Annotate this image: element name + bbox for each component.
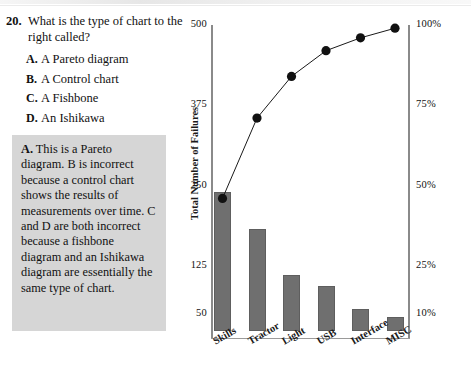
pareto-chart: Total Number of Failures 50037525012550 … [176,8,468,374]
cumulative-marker-2 [287,72,296,81]
question-prompt: What is the type of chart to the right c… [28,14,184,45]
cumulative-marker-0 [218,194,227,203]
cumulative-marker-5 [390,24,399,33]
question-number: 20. [6,14,28,29]
choice-label-d: An Ishikawa [41,111,105,126]
choice-option-a[interactable]: A. A Pareto diagram [26,52,184,67]
question-row: 20. What is the type of chart to the rig… [6,14,184,45]
answer-body: This is a Pareto diagram. B is incorrect… [21,142,156,295]
choice-option-c[interactable]: C. A Fishbone [26,91,184,106]
cumulative-marker-4 [356,33,365,42]
answer-explanation-box: A. This is a Pareto diagram. B is incorr… [12,135,166,331]
choice-label-a: A Pareto diagram [41,52,128,67]
choice-letter-d: D. [26,111,41,126]
scan-artifact-top [0,0,471,4]
choice-option-d[interactable]: D. An Ishikawa [26,111,184,126]
cumulative-marker-3 [321,46,330,55]
choice-letter-b: B. [26,72,41,87]
scan-artifact-line [0,5,471,6]
question-block: 20. What is the type of chart to the rig… [6,14,184,130]
choice-option-b[interactable]: B. A Control chart [26,72,184,87]
answer-explanation-text: A. This is a Pareto diagram. B is incorr… [21,142,157,296]
choice-list: A. A Pareto diagram B. A Control chart C… [6,52,184,126]
choice-label-c: A Fishbone [41,91,98,106]
cumulative-line-series [176,8,468,374]
answer-lead-letter: A. [21,142,33,156]
choice-letter-a: A. [26,52,41,67]
choice-label-b: A Control chart [41,72,119,87]
choice-letter-c: C. [26,91,41,106]
cumulative-line [223,28,396,198]
cumulative-marker-1 [252,114,261,123]
